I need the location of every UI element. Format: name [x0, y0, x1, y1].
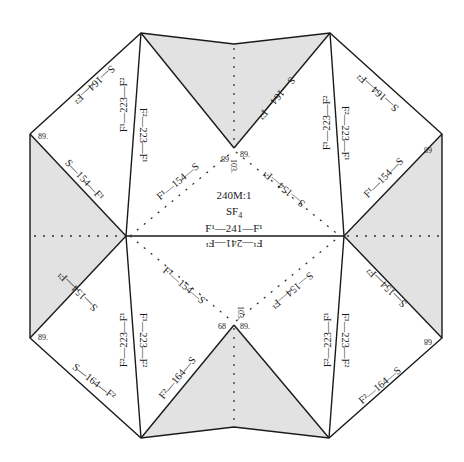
bond-label-bottom: F¹—241—F¹: [205, 238, 262, 250]
edge-label: S—164—F²: [355, 71, 401, 114]
angle-label: 89.: [38, 333, 48, 342]
angle-label: 103.: [236, 306, 245, 320]
edge-label: F¹—223—F²: [321, 96, 332, 151]
edge-label: F²—223—F¹: [118, 313, 129, 368]
angle-label: 89.: [38, 132, 48, 141]
angle-label: 68: [221, 154, 229, 163]
angle-label: 89.: [240, 150, 250, 159]
angle-label: 89.: [240, 322, 250, 331]
edge-label: F¹—223—F²: [340, 313, 351, 368]
bond-label-top: F¹—241—F¹: [205, 222, 262, 234]
angle-label: 103.: [229, 159, 238, 173]
angle-label: 68: [424, 145, 432, 154]
angle-label: 68: [218, 322, 226, 331]
edge-label: F²—223—F¹: [322, 313, 333, 368]
edge-label: S—154—F¹: [269, 270, 316, 312]
edge-label: F²—164—S: [356, 364, 403, 406]
sf4-folding-net: 240M:1 SF4 F¹—241—F¹ F¹—241—F¹ S—164—F² …: [0, 0, 464, 462]
scale-label: 240M:1: [217, 189, 252, 201]
edge-label: S—154—F¹: [260, 168, 307, 210]
edge-label: S—164—F²: [71, 63, 117, 106]
edge-label: F¹—154—S: [161, 265, 208, 307]
center-labels: 240M:1 SF4 F¹—241—F¹ F¹—241—F¹: [205, 189, 262, 250]
shaded-top-flap: [141, 33, 330, 148]
edge-label: F²—223—F¹: [138, 108, 149, 163]
edge-label: F¹—154—S: [154, 160, 201, 202]
edge-label: F¹—223—F²: [138, 313, 149, 368]
angle-label: 68: [424, 337, 432, 346]
formula-label: SF4: [226, 205, 242, 220]
edge-label: F²—223—F¹: [340, 106, 351, 161]
edge-label: F¹—223—F²: [118, 78, 129, 133]
